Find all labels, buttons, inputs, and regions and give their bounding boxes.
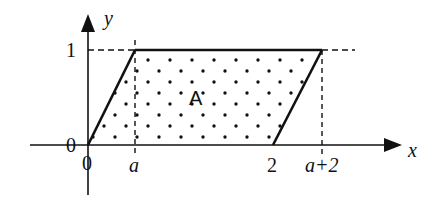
region-label: A — [189, 87, 203, 109]
x-tick-a-plus-2: a+2 — [305, 154, 339, 176]
x-tick-0: 0 — [82, 152, 92, 174]
x-axis-arrow-icon — [384, 138, 402, 152]
x-axis-label: x — [407, 139, 417, 161]
x-tick-2: 2 — [267, 154, 277, 176]
y-axis-label: y — [102, 7, 113, 30]
x-tick-a: a — [129, 154, 139, 176]
y-tick-1: 1 — [66, 39, 76, 61]
y-axis-arrow-icon — [81, 14, 95, 32]
diagram-canvas: y x 1 0 0 a 2 a+2 A — [0, 0, 442, 203]
y-tick-0: 0 — [66, 134, 76, 156]
region-a-fill — [88, 50, 322, 145]
